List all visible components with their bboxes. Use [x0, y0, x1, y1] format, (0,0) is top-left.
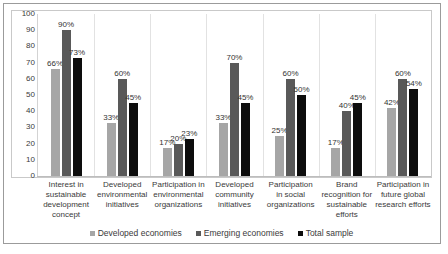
bar-value-label: 90% — [55, 20, 77, 29]
bar-group: 25%60%50% — [263, 14, 319, 176]
category-label-line: Developed — [204, 180, 264, 190]
category-label-line: efforts — [317, 210, 377, 220]
category-label-line: future global — [373, 190, 433, 200]
bar-value-label: 45% — [347, 93, 369, 102]
bar[interactable] — [163, 148, 172, 176]
category-label-line: sustainable — [317, 200, 377, 210]
x-axis-category-label: Participation inenvironmentalorganizatio… — [148, 180, 208, 210]
category-label-line: initiatives — [92, 200, 152, 210]
y-axis-tick-label: 50 — [13, 91, 35, 99]
category-separator — [94, 14, 95, 176]
category-label-line: initiatives — [204, 200, 264, 210]
category-label-line: Participation — [261, 180, 321, 190]
category-separator — [150, 14, 151, 176]
legend-swatch-icon — [90, 231, 95, 236]
chart-legend: Developed economiesEmerging economiesTot… — [11, 226, 432, 240]
category-label-line: environmental — [148, 190, 208, 200]
bar[interactable] — [174, 144, 183, 176]
y-axis: 0102030405060708090100 — [13, 10, 35, 177]
bar-group: 17%40%45% — [319, 14, 375, 176]
category-label-line: Brand — [317, 180, 377, 190]
legend-swatch-icon — [298, 231, 303, 236]
legend-label: Total sample — [306, 229, 354, 238]
category-label-line: development — [36, 200, 96, 210]
bar[interactable] — [241, 103, 250, 176]
category-label-line: organizations — [148, 200, 208, 210]
legend-label: Emerging economies — [204, 229, 284, 238]
bar[interactable] — [409, 89, 418, 176]
bar[interactable] — [107, 123, 116, 176]
category-label-line: in social — [261, 190, 321, 200]
bar-value-label: 73% — [66, 48, 88, 57]
x-axis-category-labels: Interest insustainabledevelopmentconcept… — [38, 180, 431, 224]
legend-item[interactable]: Emerging economies — [196, 229, 284, 238]
category-separator — [319, 14, 320, 176]
category-label-line: Interest in — [36, 180, 96, 190]
category-label-line: research efforts — [373, 200, 433, 210]
y-axis-tick-label: 30 — [13, 123, 35, 131]
bar-value-label: 60% — [392, 69, 414, 78]
legend-item[interactable]: Developed economies — [90, 229, 182, 238]
category-label-line: environmental — [92, 190, 152, 200]
x-axis-line — [37, 176, 431, 177]
category-label-line: organizations — [261, 200, 321, 210]
y-axis-tick-label: 20 — [13, 140, 35, 148]
category-label-line: Developed — [92, 180, 152, 190]
category-label-line: recognition for — [317, 190, 377, 200]
bar[interactable] — [398, 79, 407, 176]
y-axis-tick-label: 100 — [13, 10, 35, 18]
legend-label: Developed economies — [98, 229, 182, 238]
bar[interactable] — [342, 111, 351, 176]
y-axis-tick-label: 0 — [13, 172, 35, 180]
x-axis-category-label: Developedcommunityinitiatives — [204, 180, 264, 210]
category-label-line: Participation in — [148, 180, 208, 190]
category-label-line: sustainable — [36, 190, 96, 200]
bar[interactable] — [387, 108, 396, 176]
y-axis-tick-label: 60 — [13, 75, 35, 83]
y-axis-tick-label: 70 — [13, 59, 35, 67]
bar-value-label: 45% — [122, 93, 144, 102]
bar[interactable] — [129, 103, 138, 176]
bar-group: 66%90%73% — [38, 14, 94, 176]
bar-group: 17%20%23% — [150, 14, 206, 176]
y-axis-tick-label: 40 — [13, 107, 35, 115]
x-axis-category-label: Participationin socialorganizations — [261, 180, 321, 210]
bar-value-label: 60% — [280, 69, 302, 78]
bar[interactable] — [230, 63, 239, 176]
bar[interactable] — [219, 123, 228, 176]
category-label-line: concept — [36, 210, 96, 220]
category-separator — [263, 14, 264, 176]
bar-value-label: 23% — [178, 129, 200, 138]
bar-group: 33%60%45% — [94, 14, 150, 176]
x-axis-category-label: Interest insustainabledevelopmentconcept — [36, 180, 96, 220]
x-axis-category-label: Participation infuture globalresearch ef… — [373, 180, 433, 210]
bar[interactable] — [51, 69, 60, 176]
bar[interactable] — [73, 58, 82, 176]
x-axis-category-label: Brandrecognition forsustainableefforts — [317, 180, 377, 220]
category-separator — [206, 14, 207, 176]
y-axis-tick-label: 90 — [13, 26, 35, 34]
category-label-line: community — [204, 190, 264, 200]
plot-area: 66%90%73%33%60%45%17%20%23%33%70%45%25%6… — [38, 14, 431, 176]
chart-frame: 0102030405060708090100 66%90%73%33%60%45… — [3, 3, 441, 244]
x-axis-category-label: Developedenvironmentalinitiatives — [92, 180, 152, 210]
bar-value-label: 54% — [403, 79, 425, 88]
bar-value-label: 50% — [291, 85, 313, 94]
bar-value-label: 45% — [234, 93, 256, 102]
bar-group: 42%60%54% — [375, 14, 431, 176]
bar-value-label: 60% — [111, 69, 133, 78]
legend-swatch-icon — [196, 231, 201, 236]
bar-value-label: 70% — [223, 53, 245, 62]
category-label-line: Participation in — [373, 180, 433, 190]
y-axis-tick-label: 80 — [13, 42, 35, 50]
bar[interactable] — [353, 103, 362, 176]
bar[interactable] — [297, 95, 306, 176]
category-separator — [375, 14, 376, 176]
legend-item[interactable]: Total sample — [298, 229, 354, 238]
bar-group: 33%70%45% — [206, 14, 262, 176]
bar[interactable] — [275, 136, 284, 177]
bar[interactable] — [331, 148, 340, 176]
bar[interactable] — [185, 139, 194, 176]
y-axis-tick-label: 10 — [13, 156, 35, 164]
